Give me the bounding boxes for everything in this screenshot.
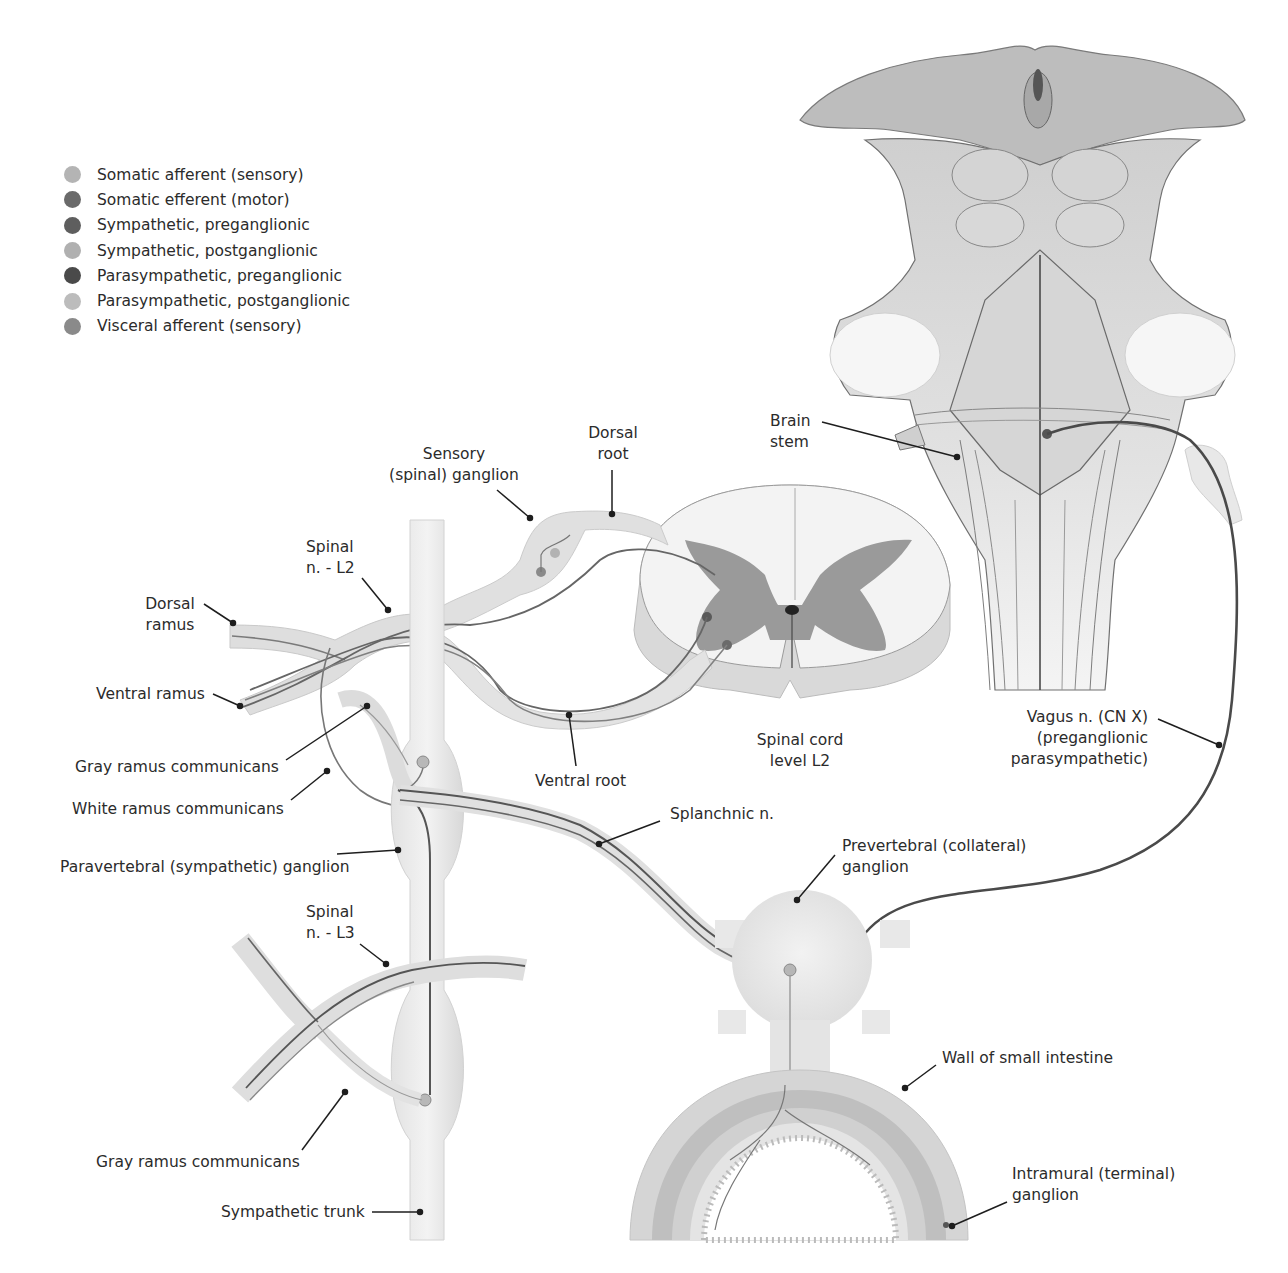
label-line: root	[583, 444, 643, 465]
label-intramural-ganglion: Intramural (terminal) ganglion	[1012, 1164, 1175, 1206]
legend-label: Parasympathetic, postganglionic	[97, 292, 350, 310]
label-brain-stem: Brain stem	[770, 411, 811, 453]
legend-swatch-icon	[64, 242, 81, 259]
legend-swatch-icon	[64, 217, 81, 234]
legend-label: Parasympathetic, preganglionic	[97, 267, 342, 285]
legend-label: Sympathetic, preganglionic	[97, 216, 310, 234]
label-line: Dorsal	[583, 423, 643, 444]
legend-label: Visceral afferent (sensory)	[97, 317, 302, 335]
label-white-ramus: White ramus communicans	[72, 799, 284, 820]
legend-label: Somatic efferent (motor)	[97, 191, 290, 209]
label-ventral-ramus: Ventral ramus	[96, 684, 205, 705]
label-spinal-n-l2: Spinal n. - L2	[306, 537, 355, 579]
label-line: n. - L3	[306, 923, 355, 944]
label-line: Spinal	[306, 537, 355, 558]
label-spinal-n-l3: Spinal n. - L3	[306, 902, 355, 944]
label-line: (spinal) ganglion	[388, 465, 520, 486]
label-line: ramus	[140, 615, 200, 636]
label-gray-ramus-upper: Gray ramus communicans	[75, 757, 279, 778]
legend-swatch-icon	[64, 318, 81, 335]
small-intestine-wall	[630, 1070, 968, 1240]
label-sympathetic-trunk: Sympathetic trunk	[221, 1202, 365, 1223]
label-line: Prevertebral (collateral)	[842, 836, 1026, 857]
label-ventral-root: Ventral root	[535, 771, 626, 792]
label-wall-small-intestine: Wall of small intestine	[942, 1048, 1113, 1069]
legend-swatch-icon	[64, 166, 81, 183]
legend-label: Sympathetic, postganglionic	[97, 242, 318, 260]
label-dorsal-root: Dorsal root	[583, 423, 643, 465]
label-splanchnic-n: Splanchnic n.	[670, 804, 774, 825]
autonomic-nervous-system-diagram: Somatic afferent (sensory) Somatic effer…	[0, 0, 1288, 1273]
legend-item-somatic-efferent: Somatic efferent (motor)	[64, 187, 350, 212]
label-line: n. - L2	[306, 558, 355, 579]
legend: Somatic afferent (sensory) Somatic effer…	[64, 162, 350, 339]
legend-item-parasympathetic-postganglionic: Parasympathetic, postganglionic	[64, 288, 350, 313]
label-vagus-n: Vagus n. (CN X) (preganglionic parasympa…	[1000, 707, 1148, 770]
label-prevertebral-ganglion: Prevertebral (collateral) ganglion	[842, 836, 1026, 878]
label-line: ganglion	[1012, 1185, 1175, 1206]
legend-label: Somatic afferent (sensory)	[97, 166, 304, 184]
legend-item-parasympathetic-preganglionic: Parasympathetic, preganglionic	[64, 263, 350, 288]
legend-item-somatic-afferent: Somatic afferent (sensory)	[64, 162, 350, 187]
spinal-nerve-l3	[240, 938, 525, 1100]
legend-item-sympathetic-postganglionic: Sympathetic, postganglionic	[64, 238, 350, 263]
label-line: Sensory	[388, 444, 520, 465]
label-spinal-cord-level: Spinal cord level L2	[750, 730, 850, 772]
label-gray-ramus-lower: Gray ramus communicans	[96, 1152, 300, 1173]
label-line: ganglion	[842, 857, 1026, 878]
label-dorsal-ramus: Dorsal ramus	[140, 594, 200, 636]
label-line: Spinal	[306, 902, 355, 923]
label-line: Brain	[770, 411, 811, 432]
legend-item-visceral-afferent: Visceral afferent (sensory)	[64, 314, 350, 339]
label-line: Dorsal	[140, 594, 200, 615]
label-line: level L2	[750, 751, 850, 772]
label-line: Vagus n. (CN X)	[1000, 707, 1148, 728]
spinal-cord-cross-section	[634, 485, 950, 698]
label-sensory-ganglion: Sensory (spinal) ganglion	[388, 444, 520, 486]
label-line: parasympathetic)	[1000, 749, 1148, 770]
label-line: Intramural (terminal)	[1012, 1164, 1175, 1185]
legend-swatch-icon	[64, 267, 81, 284]
legend-swatch-icon	[64, 293, 81, 310]
legend-swatch-icon	[64, 191, 81, 208]
label-line: stem	[770, 432, 811, 453]
legend-item-sympathetic-preganglionic: Sympathetic, preganglionic	[64, 213, 350, 238]
label-line: (preganglionic	[1000, 728, 1148, 749]
label-line: Spinal cord	[750, 730, 850, 751]
label-paravertebral-ganglion: Paravertebral (sympathetic) ganglion	[60, 857, 350, 878]
